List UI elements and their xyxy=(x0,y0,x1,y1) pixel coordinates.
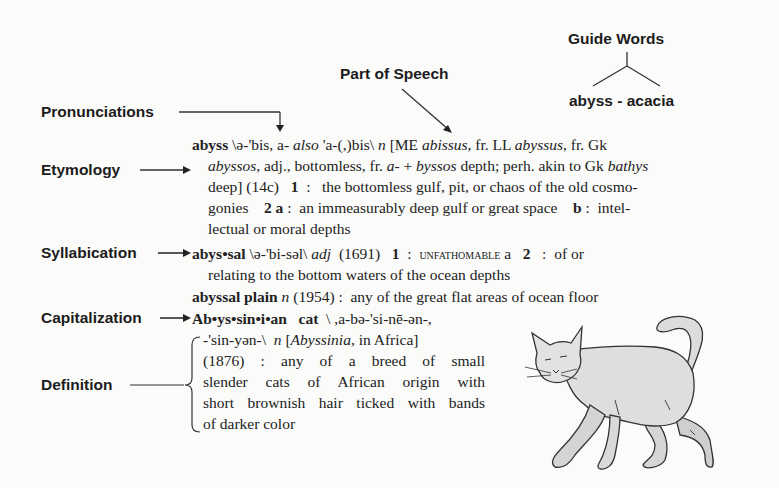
entry-abyssal-line1: abys•sal \ə-'bi-səl\ adj (1691) 1 : unfa… xyxy=(192,243,584,265)
guide-words-label: Guide Words xyxy=(568,30,664,48)
capitalization-label: Capitalization xyxy=(41,309,142,327)
headword: abys•sal xyxy=(192,245,246,262)
date-text: deep] (14c) xyxy=(208,178,291,195)
etymology-text: , fr. Gk xyxy=(563,136,607,153)
etymology-word: abissus xyxy=(422,136,468,153)
pronunciation: \ə-'bis, a- xyxy=(228,136,293,153)
pronunciation-alt: 'a-(,)bis\ xyxy=(319,136,378,153)
entry-abyssinian-cat-line4: slender cats of African origin with xyxy=(203,371,485,392)
entry-abyss-line2: abyssos, adj., bottomless, fr. a- + byss… xyxy=(208,155,648,176)
etymology-text: [ xyxy=(282,331,291,348)
syllabication-label: Syllabication xyxy=(41,244,137,262)
headword: Ab•ys•sin•i•an cat xyxy=(192,310,318,327)
entry-abyssinian-cat-line2: -'sin-yən-\ n [Abyssinia, in Africa] xyxy=(203,329,418,350)
definition-text: gonies xyxy=(208,199,264,216)
etymology-word: a- xyxy=(387,157,400,174)
part-of-speech-label: Part of Speech xyxy=(340,65,449,83)
etymology-label: Etymology xyxy=(41,161,120,179)
etymology-word: Abyssinia xyxy=(291,331,351,348)
definition-text: : the bottomless gulf, pit, or chaos of … xyxy=(298,178,637,195)
entry-abyssal-line2: relating to the bottom waters of the oce… xyxy=(208,264,510,285)
entry-abyss-line4: gonies 2 a : an immeasurably deep gulf o… xyxy=(208,197,630,218)
entry-abyssinian-cat-line5: short brownish hair ticked with bands xyxy=(203,392,485,413)
cat-illustration xyxy=(515,305,745,475)
date-text: (1691) xyxy=(331,245,392,262)
etymology-text: + xyxy=(400,157,417,174)
pronunciation: -'sin-yən-\ xyxy=(203,331,274,348)
etymology-word: abyssus xyxy=(515,136,563,153)
definition-text: : intel- xyxy=(582,199,631,216)
part-of-speech: n xyxy=(378,136,386,153)
entry-abyss-line5: lectual or moral depths xyxy=(208,218,350,239)
entry-abyssinian-cat-line1: Ab•ys•sin•i•an cat \ ,a-bə-'si-nē-ən-, xyxy=(192,308,432,329)
entry-abyss-line3: deep] (14c) 1 : the bottomless gulf, pit… xyxy=(208,176,638,197)
cross-reference-sense: a xyxy=(500,245,522,262)
entry-abyssinian-cat-line6: of darker color xyxy=(203,413,295,434)
pronunciations-label: Pronunciations xyxy=(41,103,154,121)
etymology-word: bathys xyxy=(608,157,648,174)
headword: abyss xyxy=(192,136,228,153)
etymology-word: byssos xyxy=(416,157,456,174)
headword: abyssal plain xyxy=(192,288,278,305)
etymology-text: , adj., bottomless, fr. xyxy=(256,157,386,174)
etymology-text: , fr. LL xyxy=(468,136,515,153)
sense-letter: b xyxy=(573,199,582,216)
part-of-speech: adj xyxy=(311,245,331,262)
pronunciation: \ə-'bi-səl\ xyxy=(246,245,312,262)
etymology-text: , in Africa] xyxy=(351,331,419,348)
etymology-text: [ME xyxy=(386,136,422,153)
definition-text: : an immeasurably deep gulf or great spa… xyxy=(283,199,573,216)
etymology-word: abyssos xyxy=(208,157,256,174)
sense-number: 2 xyxy=(264,199,272,216)
entry-abyssinian-cat-line3: (1876) : any of a breed of small xyxy=(203,350,485,371)
sense-number: 1 xyxy=(392,245,400,262)
cross-reference: unfathomable xyxy=(419,247,500,262)
entry-abyss-line1: abyss \ə-'bis, a- also 'a-(,)bis\ n [ME … xyxy=(192,134,607,155)
entry-abyssal-plain: abyssal plain n (1954) : any of the grea… xyxy=(192,286,598,307)
pronunciation: \ ,a-bə-'si-nē-ən-, xyxy=(318,310,431,327)
definition-label: Definition xyxy=(41,376,112,394)
separator: : xyxy=(400,245,420,262)
part-of-speech: n xyxy=(274,331,282,348)
definition-text: (1954) : any of the great flat areas of … xyxy=(289,288,598,305)
etymology-text: depth; perh. akin to Gk xyxy=(457,157,608,174)
also-word: also xyxy=(293,136,319,153)
definition-text: : of or xyxy=(530,245,583,262)
guide-words-value: abyss - acacia xyxy=(569,92,674,110)
